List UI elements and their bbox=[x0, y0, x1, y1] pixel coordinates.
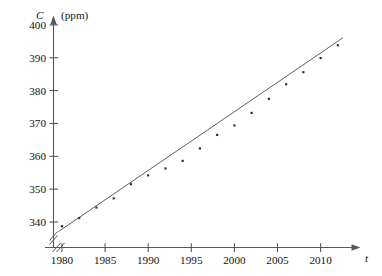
data-point bbox=[182, 160, 184, 162]
data-point bbox=[285, 83, 287, 85]
x-tick-label-group: 1980198519901995200020052010 bbox=[51, 254, 332, 266]
x-tick-label: 2010 bbox=[309, 254, 332, 266]
data-point bbox=[251, 112, 253, 114]
x-tick-label: 1980 bbox=[51, 254, 74, 266]
y-axis: 340350360370380390400 bbox=[29, 16, 58, 249]
x-axis-title-symbol: t bbox=[365, 252, 369, 264]
co2-scatter-chart: 340350360370380390400 198019851990199520… bbox=[0, 0, 382, 276]
x-tick-label: 1985 bbox=[94, 254, 117, 266]
data-point bbox=[147, 174, 149, 176]
chart-canvas: 340350360370380390400 198019851990199520… bbox=[0, 0, 382, 276]
y-tick-label: 380 bbox=[29, 85, 46, 97]
x-axis-arrowhead bbox=[352, 244, 361, 250]
y-tick-label: 360 bbox=[29, 150, 46, 162]
y-axis-title-units: (ppm) bbox=[61, 9, 89, 22]
x-tick-label: 1990 bbox=[137, 254, 160, 266]
y-axis-title-symbol: C bbox=[36, 9, 44, 21]
regression-line bbox=[59, 38, 343, 232]
data-point bbox=[61, 225, 63, 227]
y-tick-label: 370 bbox=[29, 117, 46, 129]
x-tick-label: 2005 bbox=[266, 254, 289, 266]
data-point bbox=[337, 44, 339, 46]
data-point bbox=[78, 217, 80, 219]
y-tick-label: 350 bbox=[29, 183, 46, 195]
y-axis-arrowhead bbox=[50, 16, 56, 25]
data-point bbox=[95, 206, 97, 208]
x-tick-label: 2000 bbox=[223, 254, 246, 266]
data-point bbox=[199, 147, 201, 149]
x-axis: 1980198519901995200020052010 bbox=[45, 243, 361, 266]
y-tick-label: 390 bbox=[29, 52, 46, 64]
data-point bbox=[113, 197, 115, 199]
y-tick-label-group: 340350360370380390400 bbox=[29, 19, 46, 228]
data-point bbox=[320, 57, 322, 59]
y-tick-label: 340 bbox=[29, 216, 46, 228]
data-point bbox=[302, 71, 304, 73]
data-point bbox=[268, 98, 270, 100]
data-point bbox=[164, 167, 166, 169]
data-point bbox=[216, 134, 218, 136]
data-point bbox=[130, 183, 132, 185]
data-point bbox=[233, 124, 235, 126]
x-tick-label: 1995 bbox=[180, 254, 203, 266]
